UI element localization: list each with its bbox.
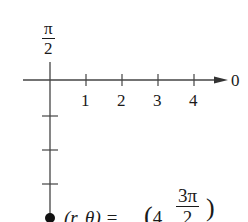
denominator: 2 — [42, 40, 55, 57]
closing-paren: ) — [206, 195, 215, 221]
point-r: 4 — [153, 207, 163, 222]
polar-axis-label: 0 — [231, 72, 240, 89]
theta-denominator: 2 — [176, 208, 199, 222]
vertical-axis-label: π 2 — [42, 20, 55, 57]
arrow-right-icon — [214, 77, 228, 84]
tick-label-4: 4 — [189, 92, 198, 109]
polar-axes — [0, 0, 248, 222]
point-label-prefix: (r, θ) = — [64, 207, 118, 222]
point-label: (r, θ) = — [64, 208, 118, 222]
theta-numerator: 3π — [176, 186, 199, 205]
point-theta: 3π 2 — [176, 186, 199, 222]
point-coordinates: (4, — [144, 203, 167, 222]
plotted-point — [45, 213, 55, 222]
numerator: π — [42, 20, 55, 37]
tick-label-1: 1 — [81, 92, 90, 109]
tick-label-3: 3 — [153, 92, 162, 109]
tick-label-2: 2 — [117, 92, 126, 109]
